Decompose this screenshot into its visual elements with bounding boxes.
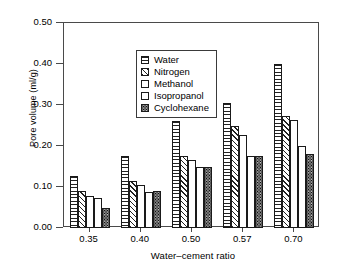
y-tick-mark	[56, 186, 63, 187]
bar	[255, 156, 263, 228]
legend-item-label: Nitrogen	[154, 67, 190, 77]
bar	[145, 192, 153, 228]
bar	[78, 191, 86, 228]
bar	[102, 208, 110, 229]
legend-item: Isopropanol	[141, 90, 209, 102]
y-tick-mark	[56, 104, 63, 105]
bar	[247, 156, 255, 228]
legend-swatch-icon	[141, 56, 149, 64]
y-tick-label: 0.10	[12, 181, 52, 190]
y-tick-label: 0.20	[12, 140, 52, 149]
legend-item-label: Isopropanol	[154, 91, 204, 101]
y-tick-mark	[56, 22, 63, 23]
legend-swatch-icon	[141, 68, 149, 76]
bar	[180, 156, 188, 228]
x-tick-label: 0.70	[265, 233, 321, 244]
bar	[223, 103, 231, 228]
legend-swatch-icon	[141, 104, 149, 112]
bar	[94, 198, 102, 228]
legend-item: Water	[141, 54, 209, 66]
bar	[239, 135, 247, 228]
chart-legend: WaterNitrogenMethanolIsopropanolCyclohex…	[136, 50, 217, 118]
legend-item-label: Cyclohexane	[154, 103, 209, 113]
y-tick-mark	[56, 145, 63, 146]
bar	[204, 167, 212, 229]
bar	[129, 181, 137, 228]
legend-item-label: Water	[154, 55, 179, 65]
bar	[172, 121, 180, 228]
legend-item: Nitrogen	[141, 66, 209, 78]
bar	[86, 196, 94, 228]
x-tick-label: 0.40	[112, 233, 168, 244]
bar	[196, 167, 204, 229]
plot-area: WaterNitrogenMethanolIsopropanolCyclohex…	[63, 22, 319, 227]
bar	[153, 191, 161, 228]
bar	[274, 64, 282, 228]
x-axis-title: Water–cement ratio	[63, 250, 323, 261]
bar	[290, 120, 298, 228]
x-tick-label: 0.35	[61, 233, 117, 244]
bar	[298, 146, 306, 228]
y-tick-mark	[56, 227, 63, 228]
legend-swatch-icon	[141, 92, 149, 100]
legend-item: Cyclohexane	[141, 102, 209, 114]
y-tick-mark	[56, 63, 63, 64]
y-tick-label: 0.00	[12, 222, 52, 231]
bar	[306, 154, 314, 228]
legend-item-label: Methanol	[154, 79, 193, 89]
y-tick-label: 0.30	[12, 99, 52, 108]
legend-item: Methanol	[141, 78, 209, 90]
pore-volume-bar-chart: Pore volume (ml/g) Water–cement ratio 0.…	[0, 0, 344, 269]
bar	[137, 185, 145, 228]
x-tick-label: 0.50	[163, 233, 219, 244]
bar	[231, 126, 239, 228]
legend-swatch-icon	[141, 80, 149, 88]
x-tick-label: 0.57	[214, 233, 270, 244]
y-tick-label: 0.50	[12, 17, 52, 26]
y-tick-label: 0.40	[12, 58, 52, 67]
bar	[282, 116, 290, 228]
bar	[188, 160, 196, 228]
bar	[70, 176, 78, 228]
bar	[121, 156, 129, 228]
